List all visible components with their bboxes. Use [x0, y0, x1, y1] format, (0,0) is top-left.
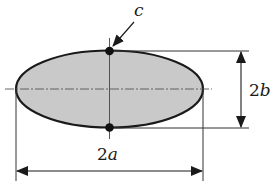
top-vertex-dot — [105, 47, 114, 56]
point-c-label: c — [134, 2, 144, 19]
major-axis-coefficient: 2 — [97, 144, 108, 164]
ellipse-diagram: c 2a 2b — [0, 0, 274, 194]
major-axis-var: a — [108, 144, 118, 164]
major-axis-label: 2a — [97, 146, 118, 163]
minor-axis-label: 2b — [249, 82, 271, 99]
minor-axis-var: b — [260, 80, 271, 100]
point-c-pointer-arrow — [113, 22, 134, 46]
point-c-var: c — [134, 0, 144, 20]
diagram-drawing — [0, 0, 274, 194]
bottom-vertex-dot — [105, 123, 114, 132]
minor-axis-coefficient: 2 — [249, 80, 260, 100]
